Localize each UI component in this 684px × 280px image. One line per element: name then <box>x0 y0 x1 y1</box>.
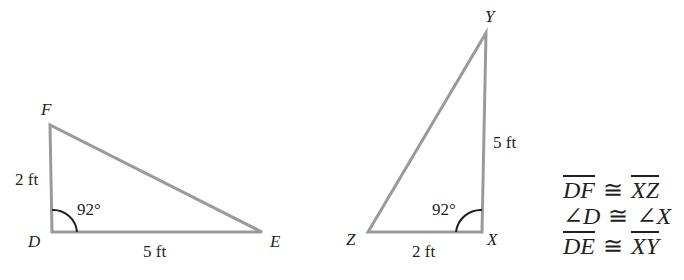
statement-angle-d-x: ∠D≅∠X <box>563 204 671 228</box>
side-label-zx: 2 ft <box>412 242 435 262</box>
vertex-label-z: Z <box>346 230 355 250</box>
congruent-symbol: ≅ <box>608 203 628 229</box>
angle-arc-d <box>52 210 77 232</box>
vertex-label-e: E <box>270 232 280 252</box>
segment-xy: XY <box>631 233 659 259</box>
segment-df: DF <box>563 177 595 203</box>
side-label-xy: 5 ft <box>493 133 516 153</box>
statement-de-xy: DE≅XY <box>563 234 659 258</box>
vertex-label-d: D <box>28 232 40 252</box>
triangle-xyz <box>368 33 486 232</box>
vertex-label-x: X <box>487 230 497 250</box>
side-label-df: 2 ft <box>15 170 38 190</box>
side-label-de: 5 ft <box>143 242 166 262</box>
angle-x: ∠X <box>636 203 671 229</box>
angle-arc-x <box>456 210 482 232</box>
angle-label-x: 92° <box>432 200 456 220</box>
vertex-label-f: F <box>41 100 51 120</box>
segment-xz: XZ <box>631 177 659 203</box>
angle-label-d: 92° <box>77 200 101 220</box>
congruent-symbol: ≅ <box>603 233 623 259</box>
segment-de: DE <box>563 233 595 259</box>
vertex-label-y: Y <box>485 7 494 27</box>
statement-df-xz: DF≅XZ <box>563 178 659 202</box>
angle-d: ∠D <box>563 203 600 229</box>
congruent-symbol: ≅ <box>603 177 623 203</box>
